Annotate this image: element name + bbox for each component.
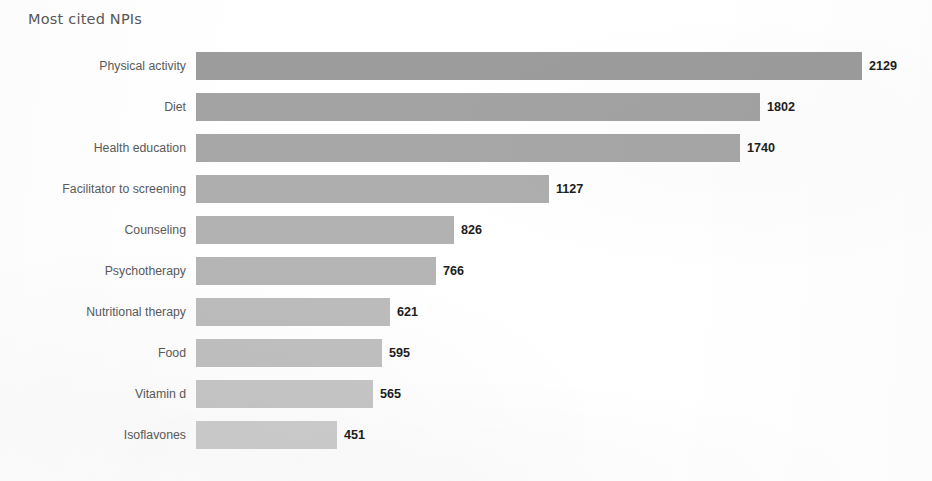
bar-track: 1802 bbox=[196, 93, 932, 121]
chart-title: Most cited NPIs bbox=[28, 11, 142, 27]
bar-row: Physical activity2129 bbox=[0, 52, 932, 93]
bar bbox=[196, 93, 760, 121]
bar-track: 826 bbox=[196, 216, 932, 244]
category-axis-label: Nutritional therapy bbox=[86, 298, 186, 326]
category-axis-label: Health education bbox=[94, 134, 186, 162]
bar bbox=[196, 421, 337, 449]
category-axis-label: Food bbox=[158, 339, 186, 367]
category-axis-label: Facilitator to screening bbox=[62, 175, 186, 203]
bar-track: 621 bbox=[196, 298, 932, 326]
bar-track: 766 bbox=[196, 257, 932, 285]
bar-track: 1127 bbox=[196, 175, 932, 203]
bar-track: 595 bbox=[196, 339, 932, 367]
bar-row: Psychotherapy766 bbox=[0, 257, 932, 298]
bar-row: Food595 bbox=[0, 339, 932, 380]
bar-value-label: 2129 bbox=[869, 52, 897, 80]
bar-row: Health education1740 bbox=[0, 134, 932, 175]
bar bbox=[196, 175, 549, 203]
bar-row: Isoflavones451 bbox=[0, 421, 932, 462]
category-axis-label: Psychotherapy bbox=[105, 257, 186, 285]
bar bbox=[196, 257, 436, 285]
category-axis-label: Isoflavones bbox=[124, 421, 186, 449]
bar-chart-figure: Most cited NPIs Physical activity2129Die… bbox=[0, 0, 932, 481]
bar bbox=[196, 216, 454, 244]
bar-row: Nutritional therapy621 bbox=[0, 298, 932, 339]
bar bbox=[196, 134, 740, 162]
bar-track: 565 bbox=[196, 380, 932, 408]
bar-value-label: 595 bbox=[389, 339, 410, 367]
bar-row: Facilitator to screening1127 bbox=[0, 175, 932, 216]
bar-value-label: 826 bbox=[461, 216, 482, 244]
category-axis-label: Counseling bbox=[124, 216, 186, 244]
bar bbox=[196, 52, 862, 80]
bar-value-label: 1127 bbox=[556, 175, 583, 203]
category-axis-label: Vitamin d bbox=[135, 380, 186, 408]
bar-value-label: 621 bbox=[397, 298, 418, 326]
bar-value-label: 1802 bbox=[767, 93, 795, 121]
plot-area: Physical activity2129Diet1802Health educ… bbox=[0, 52, 932, 462]
bar-value-label: 451 bbox=[344, 421, 365, 449]
bar-value-label: 766 bbox=[443, 257, 464, 285]
bar-row: Diet1802 bbox=[0, 93, 932, 134]
bar bbox=[196, 298, 390, 326]
bar-value-label: 1740 bbox=[747, 134, 775, 162]
bar-track: 2129 bbox=[196, 52, 932, 80]
bar bbox=[196, 339, 382, 367]
bar-value-label: 565 bbox=[380, 380, 401, 408]
bar-track: 1740 bbox=[196, 134, 932, 162]
category-axis-label: Diet bbox=[164, 93, 186, 121]
category-axis-label: Physical activity bbox=[99, 52, 186, 80]
bar-track: 451 bbox=[196, 421, 932, 449]
bar-row: Vitamin d565 bbox=[0, 380, 932, 421]
bar-row: Counseling826 bbox=[0, 216, 932, 257]
bar bbox=[196, 380, 373, 408]
